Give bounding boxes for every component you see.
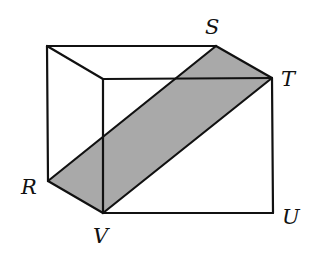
label-V: V [93, 224, 110, 248]
label-R: R [20, 175, 37, 199]
label-U: U [282, 205, 301, 229]
label-T: T [281, 67, 297, 91]
edge-front-top [103, 78, 272, 79]
shaded-plane-RSTV [48, 46, 272, 213]
edge-TU [272, 78, 273, 213]
label-S: S [205, 15, 219, 39]
prism-diagram: S T R V U [0, 0, 318, 253]
edge-back-left [47, 46, 48, 181]
edge-top-left-depth [47, 46, 103, 79]
